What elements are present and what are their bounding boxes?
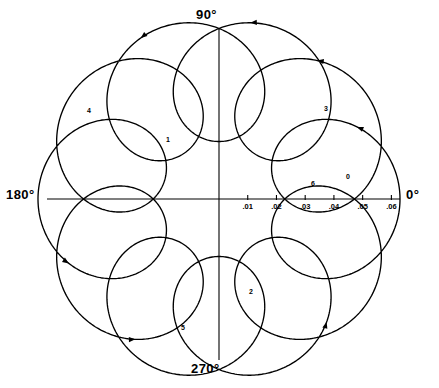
angle-label-0: 0° xyxy=(406,187,419,202)
radial-tick-label-1: .02 xyxy=(271,202,281,211)
radial-tick-label-4: .05 xyxy=(357,202,367,211)
polar-plot-canvas xyxy=(0,0,439,388)
curve-label-4: 4 xyxy=(87,107,91,114)
radial-tick-label-0: .01 xyxy=(242,202,252,211)
radial-tick-label-3: .04 xyxy=(329,202,339,211)
polar-plot-figure: 90° 0° 180° 270° .01.02.03.04.05.06 0123… xyxy=(0,0,439,388)
curve-label-1: 1 xyxy=(166,136,170,143)
radial-tick-label-5: .06 xyxy=(386,202,396,211)
curve-label-2: 2 xyxy=(249,288,253,295)
angle-label-270: 270° xyxy=(191,361,220,376)
angle-label-180: 180° xyxy=(6,187,35,202)
angle-label-90: 90° xyxy=(196,7,217,22)
direction-arrow-2 xyxy=(250,20,257,26)
curve-label-3: 3 xyxy=(324,105,328,112)
direction-arrow-5 xyxy=(129,337,136,342)
curve-label-0: 0 xyxy=(346,173,350,180)
curve-label-6: 6 xyxy=(311,180,315,187)
radial-tick-label-2: .03 xyxy=(300,202,310,211)
curve-label-5: 5 xyxy=(181,324,185,331)
